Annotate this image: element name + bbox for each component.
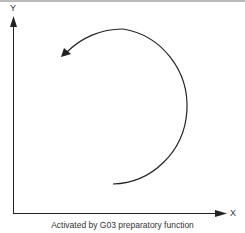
x-axis-label: X [230, 208, 236, 218]
caption: Activated by G03 preparatory function [0, 220, 245, 230]
y-axis-label: Y [10, 3, 16, 13]
x-axis [13, 210, 227, 217]
arc-arrow-icon [61, 29, 187, 184]
y-axis [10, 16, 17, 213]
diagram-canvas [0, 0, 245, 233]
